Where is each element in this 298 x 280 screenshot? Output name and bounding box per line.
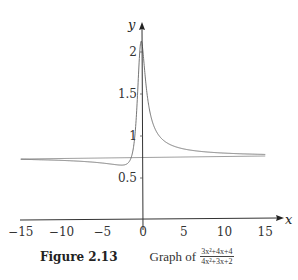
x-tick-label: 0 [139, 225, 147, 239]
x-tick-label: −15 [8, 225, 33, 239]
y-tick-label: 0.5 [118, 171, 137, 185]
x-axis-arrow-icon [276, 215, 284, 221]
x-tick-label: −10 [49, 225, 74, 239]
axes: x y [20, 17, 293, 230]
x-tick-label: 10 [217, 225, 232, 239]
figure-number: Figure 2.13 [40, 250, 118, 264]
figure-caption: Figure 2.13 Graph of 3x²+4x+4 4x²+3x+2 [40, 247, 280, 266]
fraction-numerator: 3x²+4x+4 [200, 247, 233, 257]
x-tick-label: 5 [180, 225, 188, 239]
caption-text: Graph of [150, 249, 197, 265]
x-tick-label: 15 [258, 225, 273, 239]
x-axis [20, 218, 278, 220]
y-axis-arrow-icon [139, 22, 145, 30]
x-tick-label: −5 [93, 225, 111, 239]
x-axis-label: x [285, 212, 293, 227]
chart-plot: x y −15−10−5051015 0.511.52 [0, 0, 298, 240]
x-ticks: −15−10−5051015 [8, 225, 273, 239]
fraction-denominator: 4x²+3x+2 [200, 257, 233, 266]
y-tick-label: 2 [129, 45, 137, 59]
y-axis-label: y [127, 17, 136, 32]
y-axis [142, 28, 143, 230]
y-tick-label: 1 [129, 129, 137, 143]
caption-fraction: 3x²+4x+4 4x²+3x+2 [200, 247, 233, 266]
y-tick-label: 1.5 [118, 87, 137, 101]
